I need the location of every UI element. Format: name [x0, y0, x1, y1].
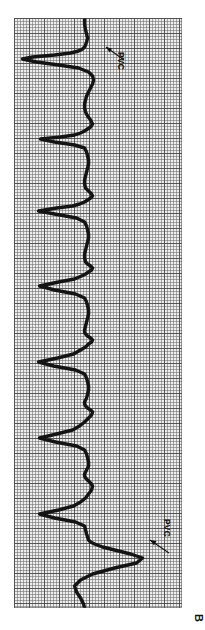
ecg-strip	[14, 18, 182, 608]
ecg-waveform-svg	[14, 18, 182, 608]
ecg-waveform-group	[23, 18, 143, 608]
pvc-label-top: PVC	[116, 52, 126, 70]
ecg-figure: PVC PVC B	[0, 0, 205, 630]
ecg-waveform-trace	[23, 18, 143, 608]
ecg-trace-container	[14, 18, 182, 608]
panel-label: B	[193, 614, 205, 622]
pvc-label-bottom: PVC	[162, 519, 172, 537]
